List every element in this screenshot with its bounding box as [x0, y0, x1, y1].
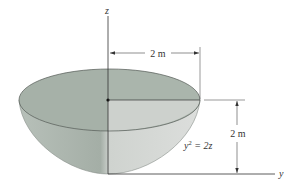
radius-arrow-right [194, 51, 199, 54]
radius-arrow-left [110, 51, 115, 54]
height-arrow-top [235, 101, 238, 106]
height-dimension-label: 2 m [230, 128, 246, 139]
height-arrow-bottom [235, 168, 238, 173]
paraboloid-diagram: z 2 m 2 m y y2 = 2z [0, 0, 302, 192]
y-axis-label: y [278, 168, 284, 179]
curve-equation: y2 = 2z [183, 139, 212, 151]
radius-dimension-label: 2 m [150, 48, 166, 59]
z-axis-label: z [104, 5, 109, 16]
